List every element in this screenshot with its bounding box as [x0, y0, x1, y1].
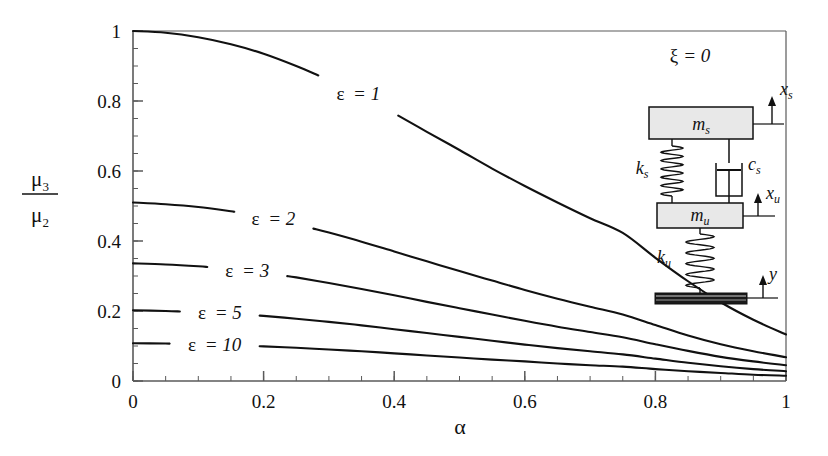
xs-symbol: x [779, 79, 788, 99]
curve-epsilon-3-left [133, 263, 207, 267]
xu-arrow-head [754, 193, 762, 203]
sprung-mass-subscript: s [705, 123, 710, 137]
y-arrow-head [759, 275, 767, 285]
curve-epsilon-5-right [260, 316, 786, 372]
chart-canvas: 00.20.40.60.81 00.20.40.60.81 ε = 1ε = 2… [0, 0, 828, 456]
curve-epsilon-10-right [260, 346, 786, 376]
xs-label: xs [779, 79, 793, 102]
y-tick-label: 0.4 [97, 231, 121, 252]
x-tick-label: 0.4 [382, 391, 406, 412]
y-axis-numerator-symbol: μ [31, 167, 42, 191]
y-disp-label: y [767, 264, 777, 284]
curve-epsilon-2-left [133, 203, 234, 212]
x-tick-label: 1 [781, 391, 791, 412]
svg-text:μ3: μ3 [31, 167, 49, 194]
curve-epsilon-5-left [133, 310, 180, 311]
curve-labels: ε = 1ε = 2ε = 3ε = 5ε = 10 [188, 83, 380, 354]
y-tick-label: 1 [112, 21, 122, 42]
cs-subscript: s [756, 163, 761, 177]
y-tick-label: 0.2 [97, 301, 121, 322]
curve-label-epsilon-2: ε = 2 [251, 208, 295, 229]
curve-label-epsilon-1: ε = 1 [336, 83, 380, 104]
xs-subscript: s [788, 88, 793, 102]
cs-symbol: c [748, 154, 756, 174]
ks-label: ks [636, 158, 649, 181]
curve-label-epsilon-3: ε = 3 [225, 260, 269, 281]
x-axis-title: α [454, 414, 466, 439]
x-axis-tick-labels: 00.20.40.60.81 [128, 391, 791, 412]
ks-subscript: s [644, 167, 649, 181]
inset-xi-value: = 0 [683, 45, 711, 66]
unsprung-mass-symbol: m [691, 205, 704, 225]
suspension-damper [716, 139, 742, 203]
y-axis-tick-labels: 00.20.40.60.81 [97, 21, 121, 392]
suspension-spring [661, 139, 683, 203]
ku-label: ku [657, 247, 671, 270]
x-tick-label: 0.8 [644, 391, 668, 412]
inset-xi-symbol: ξ [670, 45, 679, 66]
x-tick-label: 0.2 [252, 391, 276, 412]
cs-label: cs [748, 154, 761, 177]
quarter-car-inset: ξ= 0 ms xs ks [636, 45, 793, 304]
y-axis-denominator-subscript: 2 [42, 215, 49, 230]
x-tick-label: 0 [128, 391, 138, 412]
figure-container: 00.20.40.60.81 00.20.40.60.81 ε = 1ε = 2… [0, 0, 828, 456]
y-axis-ticks [133, 31, 143, 381]
xu-label: xu [765, 183, 780, 206]
sprung-mass-symbol: m [692, 114, 705, 134]
road-surface [655, 293, 747, 304]
y-axis-numerator-subscript: 3 [42, 179, 49, 194]
tire-spring [686, 228, 714, 294]
y-axis-title: μ3 μ2 [22, 167, 58, 230]
unsprung-mass-subscript: u [704, 214, 710, 228]
curve-label-epsilon-5: ε = 5 [198, 302, 242, 323]
inset-damping-label: ξ= 0 [670, 45, 711, 66]
xu-symbol: x [765, 183, 774, 203]
ku-subscript: u [665, 256, 671, 270]
y-tick-label: 0.8 [97, 91, 121, 112]
curve-label-epsilon-10: ε = 10 [188, 334, 242, 355]
y-tick-label: 0 [112, 371, 122, 392]
xs-arrow-head [768, 96, 776, 106]
x-tick-label: 0.6 [513, 391, 537, 412]
y-tick-label: 0.6 [97, 161, 121, 182]
x-axis-ticks [133, 371, 786, 381]
curve-epsilon-1-left [133, 31, 318, 75]
y-axis-denominator-symbol: μ [31, 203, 42, 227]
svg-text:μ2: μ2 [31, 203, 49, 230]
xu-subscript: u [774, 192, 780, 206]
